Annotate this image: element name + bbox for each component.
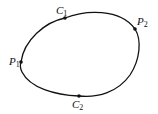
point-label-c1: C1	[56, 4, 67, 18]
point-subscript: 2	[144, 20, 148, 29]
point-label-p2: P2	[136, 15, 148, 29]
point-subscript: 2	[79, 103, 83, 112]
point-subscript: 1	[16, 60, 20, 69]
point-label-p1: P1	[8, 55, 20, 69]
point-marker-p1	[19, 60, 23, 64]
point-subscript: 1	[63, 9, 67, 18]
closed-curve	[20, 12, 139, 96]
point-marker-p2	[133, 27, 137, 31]
closed-curve-diagram: C1P2P1C2	[0, 0, 158, 114]
point-label-c2: C2	[72, 98, 83, 112]
